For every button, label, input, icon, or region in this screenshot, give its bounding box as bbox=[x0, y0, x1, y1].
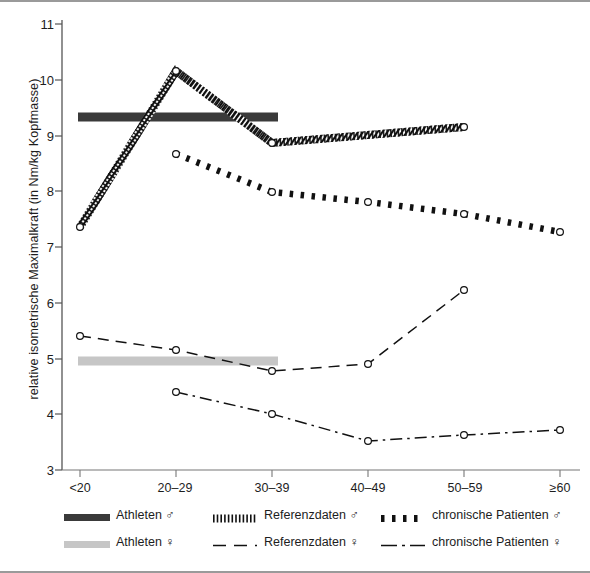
legend-label: Referenzdaten ♀ bbox=[264, 535, 359, 549]
legend-label: Referenzdaten ♂ bbox=[264, 508, 359, 522]
legend-swatch-dash-dot-icon bbox=[380, 541, 426, 549]
series-markers bbox=[173, 389, 564, 445]
y-axis-ticks bbox=[55, 24, 62, 470]
legend-swatch-thick-dash-icon bbox=[380, 514, 426, 522]
series-markers bbox=[173, 151, 564, 236]
x-axis-ticks bbox=[80, 470, 560, 477]
chart-legend: Athleten ♂ Referenzdaten ♂ chronische Pa… bbox=[0, 503, 590, 561]
legend-label: chronische Patienten ♂ bbox=[432, 508, 562, 522]
legend-swatch-dashed-icon bbox=[212, 541, 258, 549]
legend-swatch-solid-grey-icon bbox=[64, 541, 110, 548]
series-chronische-patienten-male bbox=[173, 151, 564, 236]
chart-figure: relative isometrische Maximalkraft (in N… bbox=[0, 0, 590, 573]
plot-area bbox=[0, 0, 590, 573]
legend-label: Athleten ♀ bbox=[116, 535, 175, 549]
series-referenzdaten-male bbox=[77, 68, 468, 231]
series-chronische-patienten-female bbox=[173, 389, 564, 445]
series-markers bbox=[77, 68, 468, 231]
legend-label: Athleten ♂ bbox=[116, 508, 175, 522]
legend-swatch-solid-dark-icon bbox=[64, 514, 110, 521]
legend-swatch-dense-hatch-icon bbox=[212, 514, 258, 522]
legend-label: chronische Patienten ♀ bbox=[432, 535, 562, 549]
